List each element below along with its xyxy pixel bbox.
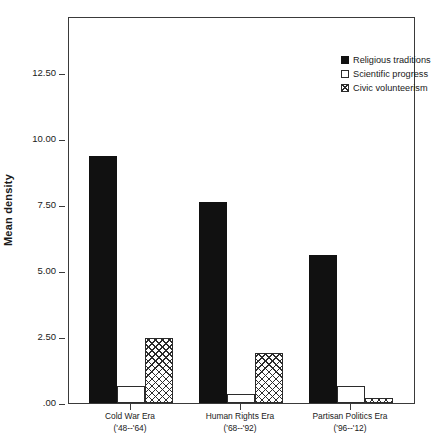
- y-axis-tick-label: .00: [43, 397, 56, 408]
- legend-swatch-icon: [341, 56, 349, 64]
- x-axis-category-years: ('68--'92): [180, 423, 300, 435]
- x-axis-category-name: Human Rights Era: [206, 411, 274, 421]
- y-axis-title: Mean density: [2, 150, 14, 270]
- bar: [199, 202, 227, 403]
- legend-item[interactable]: Religious traditions: [341, 53, 431, 66]
- chart-legend: Religious traditionsScientific progressC…: [339, 51, 432, 97]
- legend-label: Religious traditions: [353, 55, 431, 65]
- bar: [89, 156, 117, 403]
- bar: [309, 255, 337, 403]
- x-axis-category-label: Human Rights Era('68--'92): [180, 411, 300, 434]
- bar: [255, 353, 283, 403]
- x-axis-category-years: ('48--'64): [70, 423, 190, 435]
- y-axis-tick-mark: [59, 140, 65, 141]
- y-axis-tick-label: 7.50: [38, 199, 57, 210]
- x-axis-tick-mark: [130, 404, 131, 410]
- chart-page: Mean density .002.505.007.5010.0012.50 R…: [0, 0, 432, 448]
- y-axis-tick-mark: [59, 206, 65, 207]
- bar: [117, 386, 145, 403]
- y-axis-tick-mark: [59, 404, 65, 405]
- x-axis-category-name: Cold War Era: [105, 411, 155, 421]
- legend-label: Civic volunteerism: [353, 83, 428, 93]
- bar: [145, 338, 173, 403]
- legend-item[interactable]: Civic volunteerism: [341, 81, 431, 94]
- x-axis-category-years: ('96--'12): [290, 423, 410, 435]
- legend-swatch-icon: [341, 70, 349, 78]
- x-axis-category-label: Partisan Politics Era('96--'12): [290, 411, 410, 434]
- y-axis-tick-label: 12.50: [32, 67, 56, 78]
- y-axis-tick-mark: [59, 74, 65, 75]
- bar: [227, 394, 255, 404]
- bar: [337, 386, 365, 403]
- legend-swatch-icon: [341, 84, 349, 92]
- x-axis-tick-mark: [350, 404, 351, 410]
- legend-label: Scientific progress: [353, 69, 428, 79]
- y-axis-tick-label: 2.50: [38, 331, 57, 342]
- y-axis-tick-label: 5.00: [38, 265, 57, 276]
- x-axis-category-name: Partisan Politics Era: [313, 411, 388, 421]
- y-axis-tick-mark: [59, 338, 65, 339]
- bar: [365, 398, 393, 403]
- plot-frame: Religious traditionsScientific progressC…: [68, 17, 415, 404]
- y-axis-tick-label: 10.00: [32, 133, 56, 144]
- legend-item[interactable]: Scientific progress: [341, 67, 431, 80]
- y-axis-tick-mark: [59, 272, 65, 273]
- x-axis-category-label: Cold War Era('48--'64): [70, 411, 190, 434]
- x-axis-tick-mark: [240, 404, 241, 410]
